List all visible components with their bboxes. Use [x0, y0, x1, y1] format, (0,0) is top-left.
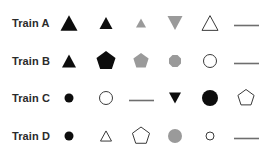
horizontal-line-icon [229, 117, 263, 155]
legend-row-label: Train D [12, 131, 50, 142]
horizontal-line-icon [124, 79, 158, 117]
circle-filled-icon [193, 79, 227, 117]
legend-row: Train C [0, 79, 272, 117]
triangle-down-gray-icon [158, 4, 192, 42]
circle-outline-small-icon [193, 117, 227, 155]
legend-row-label: Train C [12, 93, 50, 104]
circle-filled-icon [52, 117, 86, 155]
octagon-gray-icon [158, 42, 192, 80]
circle-filled-icon [52, 79, 86, 117]
horizontal-line-icon [229, 4, 263, 42]
pentagon-outline-icon [229, 79, 263, 117]
pentagon-outline-icon [124, 117, 158, 155]
pentagon-gray-icon [124, 42, 158, 80]
circle-gray-icon [158, 117, 192, 155]
triangle-down-filled-icon [158, 79, 192, 117]
legend-row: Train B [0, 42, 272, 80]
triangle-up-filled-icon [89, 4, 123, 42]
triangle-up-filled-icon [52, 42, 86, 80]
legend-row: Train A [0, 4, 272, 42]
pentagon-filled-icon [89, 42, 123, 80]
legend-row-label: Train B [12, 56, 50, 67]
legend-row-label: Train A [12, 18, 50, 29]
circle-outline-icon [193, 42, 227, 80]
triangle-up-outline-icon [89, 117, 123, 155]
circle-outline-icon [89, 79, 123, 117]
legend-row: Train D [0, 117, 272, 155]
triangle-up-filled-icon [52, 4, 86, 42]
horizontal-line-icon [229, 42, 263, 80]
triangle-up-outline-icon [193, 4, 227, 42]
triangle-up-gray-icon [124, 4, 158, 42]
marker-legend-panel: Train ATrain BTrain CTrain D [0, 0, 272, 168]
